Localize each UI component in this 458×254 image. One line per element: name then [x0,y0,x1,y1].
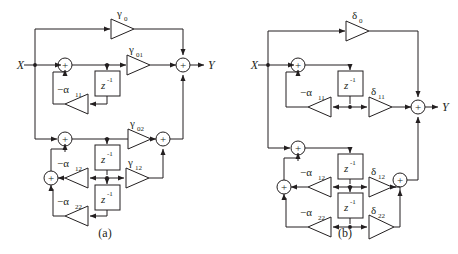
label-a-alpha22-sub: 22 [75,203,83,211]
label-b-alpha22-sym: −α [300,206,312,218]
label-b-output: Y [442,100,450,114]
label-a-gamma01-sub: 01 [136,51,144,59]
label-a-delay1-z: z [100,79,106,91]
summer-a-out-glyph: + [180,59,186,71]
summer-b-5-glyph: + [397,174,403,186]
summer-b-6-glyph: + [281,181,287,193]
label-a-input: X [16,58,25,72]
gain-b-delta0-triangle [346,21,369,41]
label-a-alpha11-sub: 11 [75,91,82,99]
label-a-gamma02-sym: γ [129,117,135,129]
label-b-input: X [250,58,259,72]
label-b-alpha12-sub: 12 [318,174,326,182]
summer-a-5-glyph: + [160,133,166,145]
label-b-delta12-sym: δ [371,165,376,177]
label-a-delay3-exp: -1 [107,190,113,198]
label-a-alpha12-sym: −α [57,157,69,169]
label-b-delay1-z: z [343,79,349,91]
label-b-delay2-z: z [343,162,349,174]
label-a-alpha22-sym: −α [57,195,69,207]
label-a-gamma12-sym: γ [127,156,133,168]
diagram-canvas: X Y γ 0 γ 01 γ 02 γ 12 −α 11 −α 12 −α 22… [0,0,458,254]
label-b-delay2-exp: -1 [350,159,356,167]
figure-signal-flow-diagrams: X Y γ 0 γ 01 γ 02 γ 12 −α 11 −α 12 −α 22… [0,0,458,254]
label-b-delta22-sub: 22 [378,212,386,220]
summer-b-4-glyph: + [295,142,301,154]
label-b-delay1-exp: -1 [350,76,356,84]
caption-panel-b: (b) [338,226,352,240]
label-a-gamma12-sub: 12 [135,164,143,172]
label-b-alpha11-sym: −α [300,86,312,98]
label-a-alpha12-sub: 12 [75,165,83,173]
label-b-alpha22-sub: 22 [318,214,326,222]
label-b-alpha12-sym: −α [300,166,312,178]
caption-panel-a: (a) [98,226,111,240]
label-a-gamma02-sub: 02 [137,125,145,133]
label-a-gamma0-sub: 0 [124,15,128,23]
summer-a-6-glyph: + [48,172,54,184]
summer-a-4-glyph: + [62,133,68,145]
label-b-delta0-sym: δ [352,9,357,21]
label-b-delta22-sym: δ [371,204,376,216]
label-a-delay1-exp: -1 [107,76,113,84]
label-a-gamma01-sym: γ [128,43,134,55]
label-b-delta11-sym: δ [371,85,376,97]
label-b-delta0-sub: 0 [359,17,363,25]
label-a-delay3-z: z [100,193,106,205]
gain-gamma0-triangle [111,19,134,39]
panel-a: X Y γ 0 γ 01 γ 02 γ 12 −α 11 −α 12 −α 22… [16,7,216,240]
summer-b-out-glyph: + [415,101,421,113]
label-b-delta11-sub: 11 [378,93,385,101]
label-b-alpha11-sub: 11 [318,94,325,102]
label-b-delay3-z: z [343,201,349,213]
summer-a-1-glyph: + [62,59,68,71]
summer-b-1-glyph: + [295,59,301,71]
label-a-alpha11-sym: −α [57,83,69,95]
label-a-output: Y [208,58,216,72]
label-b-delay3-exp: -1 [350,198,356,206]
panel-b: X Y δ 0 δ 11 δ 12 δ 22 −α 11 −α 12 −α 22… [250,9,450,240]
label-b-delta12-sub: 12 [378,173,386,181]
label-a-delay2-z: z [100,153,106,165]
label-a-gamma0-sym: γ [116,7,122,19]
label-a-delay2-exp: -1 [107,150,113,158]
